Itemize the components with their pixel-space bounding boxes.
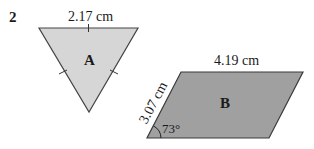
parallelogram-label: B [220,95,230,112]
triangle-side-label: 2.17 cm [68,9,113,25]
parallelogram-top-label: 4.19 cm [214,53,259,69]
geometry-diagram [0,0,314,149]
angle-label: 73° [162,121,180,137]
triangle-label: A [84,52,95,69]
triangle-a [39,28,138,112]
